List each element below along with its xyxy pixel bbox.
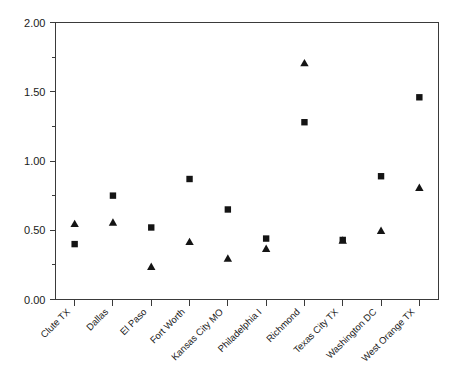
data-point-triangle — [262, 245, 270, 252]
y-tick-label: 0.50 — [24, 224, 45, 236]
chart-canvas: 0.000.501.001.502.00 Clute TXDallasEl Pa… — [0, 0, 458, 378]
data-point-triangle — [185, 238, 193, 245]
y-axis-ticks — [50, 23, 56, 300]
data-point-square — [186, 176, 192, 182]
data-point-square — [416, 94, 422, 100]
data-point-triangle — [224, 254, 232, 261]
x-axis-tick-labels: Clute TXDallasEl PasoFort WorthKansas Ci… — [38, 306, 417, 364]
y-tick-label: 0.00 — [24, 294, 45, 306]
data-markers — [70, 59, 423, 270]
data-point-square — [263, 235, 269, 241]
x-tick-label: Fort Worth — [148, 306, 187, 345]
data-point-square — [71, 241, 77, 247]
y-tick-label: 1.50 — [24, 86, 45, 98]
x-tick-label: El Paso — [118, 306, 149, 337]
data-point-square — [110, 192, 116, 198]
data-point-square — [301, 119, 307, 125]
data-point-triangle — [300, 59, 308, 66]
plot-frame — [56, 23, 439, 300]
y-tick-label: 1.00 — [24, 155, 45, 167]
data-point-triangle — [70, 220, 78, 227]
plot-border — [56, 23, 439, 300]
x-axis-ticks — [75, 300, 420, 306]
y-tick-label: 2.00 — [24, 17, 45, 29]
x-tick-label: Clute TX — [38, 306, 72, 340]
data-point-triangle — [377, 227, 385, 234]
data-point-triangle — [415, 184, 423, 191]
data-point-triangle — [147, 263, 155, 270]
data-point-square — [225, 206, 231, 212]
scatter-chart: 0.000.501.001.502.00 Clute TXDallasEl Pa… — [0, 0, 458, 378]
data-point-square — [148, 224, 154, 230]
x-tick-label: Richmond — [264, 306, 302, 344]
x-tick-label: Dallas — [84, 306, 111, 333]
data-point-square — [378, 173, 384, 179]
data-point-triangle — [109, 218, 117, 225]
y-axis-tick-labels: 0.000.501.001.502.00 — [24, 17, 45, 306]
